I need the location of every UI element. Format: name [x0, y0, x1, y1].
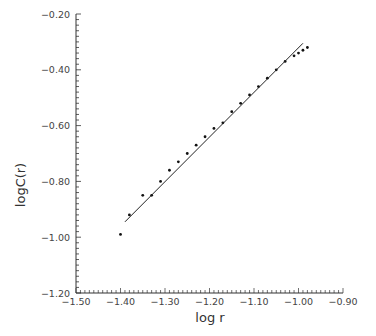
data-point — [297, 52, 300, 55]
data-point — [195, 144, 198, 147]
x-tick-label: −1.20 — [195, 296, 224, 307]
plot-area — [119, 43, 309, 236]
y-tick-label: −0.60 — [41, 120, 70, 131]
data-point — [213, 127, 216, 130]
scatter-chart: −0.20−0.40−0.60−0.80−1.00−1.20−1.50−1.40… — [0, 0, 376, 336]
data-point — [159, 180, 162, 183]
x-tick-label: −1.40 — [106, 296, 135, 307]
data-point — [177, 160, 180, 163]
x-tick-label: −0.90 — [328, 296, 357, 307]
x-axis-label: log r — [195, 310, 225, 325]
data-point — [204, 135, 207, 138]
data-point — [306, 46, 309, 49]
data-point — [302, 49, 305, 52]
y-tick-label: −0.40 — [41, 64, 70, 75]
y-tick-label: −0.20 — [41, 9, 70, 20]
data-point — [293, 54, 296, 57]
axes: −0.20−0.40−0.60−0.80−1.00−1.20−1.50−1.40… — [41, 9, 358, 308]
x-tick-label: −1.10 — [239, 296, 268, 307]
x-tick-label: −1.50 — [61, 296, 90, 307]
x-tick-label: −1.30 — [150, 296, 179, 307]
data-point — [119, 233, 122, 236]
fit-line — [125, 43, 303, 222]
data-point — [141, 194, 144, 197]
data-point — [186, 152, 189, 155]
y-tick-label: −0.80 — [41, 176, 70, 187]
y-tick-label: −1.00 — [41, 232, 70, 243]
data-point — [168, 169, 171, 172]
data-point — [230, 110, 233, 113]
x-tick-label: −1.00 — [284, 296, 313, 307]
y-axis-label: logC(r) — [13, 163, 28, 207]
